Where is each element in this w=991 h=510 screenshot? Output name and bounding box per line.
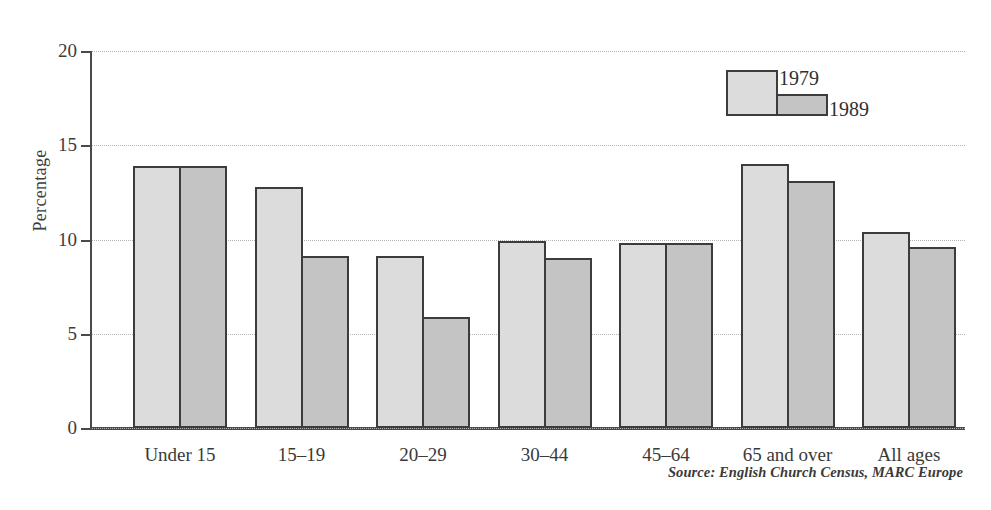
x-axis-label-65-and-over: 65 and over xyxy=(743,444,833,466)
legend-label-1979: 1979 xyxy=(779,68,819,88)
y-tick-mark-5 xyxy=(81,334,91,336)
gridline-20 xyxy=(90,51,965,52)
x-axis-label-all-ages: All ages xyxy=(878,444,941,466)
y-tick-label-10: 10 xyxy=(58,228,77,250)
bar-1989-under-15 xyxy=(179,166,227,428)
bar-1979-20–29 xyxy=(376,256,424,428)
legend: 1979 1989 xyxy=(726,70,916,126)
x-axis-label-45–64: 45–64 xyxy=(642,444,690,466)
y-tick-mark-20 xyxy=(81,51,91,53)
legend-swatch-1979-icon xyxy=(726,70,778,116)
bar-chart: Percentage 05101520 Under 1515–1920–2930… xyxy=(0,0,991,510)
legend-swatch-1989-icon xyxy=(776,94,828,116)
bar-1989-45–64 xyxy=(665,243,713,428)
y-tick-label-0: 0 xyxy=(68,417,78,439)
bar-1989-all-ages xyxy=(908,247,956,428)
bar-1979-45–64 xyxy=(619,243,667,428)
bar-1989-65-and-over xyxy=(787,181,835,428)
x-axis-label-under-15: Under 15 xyxy=(144,444,215,466)
gridline-0 xyxy=(90,428,965,429)
x-axis-label-30–44: 30–44 xyxy=(521,444,569,466)
bar-1989-15–19 xyxy=(301,256,349,428)
y-tick-mark-0 xyxy=(81,428,91,430)
gridline-15 xyxy=(90,145,965,146)
bar-1979-all-ages xyxy=(862,232,910,428)
y-axis-title: Percentage xyxy=(30,111,51,271)
bar-1979-15–19 xyxy=(255,187,303,428)
bar-1979-65-and-over xyxy=(741,164,789,428)
y-tick-label-5: 5 xyxy=(68,322,78,344)
legend-item-1989: 1989 xyxy=(776,94,869,116)
bar-1979-30–44 xyxy=(498,241,546,428)
x-axis-label-20–29: 20–29 xyxy=(399,444,447,466)
bar-1989-20–29 xyxy=(422,317,470,428)
y-tick-label-20: 20 xyxy=(58,40,77,62)
x-axis-label-15–19: 15–19 xyxy=(278,444,326,466)
y-tick-label-15: 15 xyxy=(58,134,77,156)
bar-1989-30–44 xyxy=(544,258,592,428)
source-note: Source: English Church Census, MARC Euro… xyxy=(668,464,963,481)
bar-1979-under-15 xyxy=(133,166,181,428)
y-tick-mark-10 xyxy=(81,240,91,242)
legend-label-1989: 1989 xyxy=(829,99,869,119)
y-tick-mark-15 xyxy=(81,145,91,147)
